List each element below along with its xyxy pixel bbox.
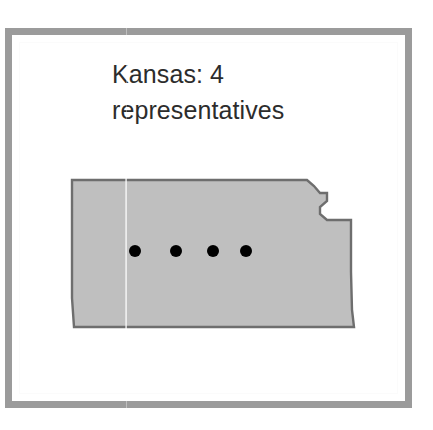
- representative-dot-2: [170, 245, 182, 257]
- figure-caption: Kansas: 4 representatives: [48, 56, 368, 128]
- kansas-map: [58, 168, 368, 338]
- representative-dot-1: [129, 245, 141, 257]
- representative-dot-4: [240, 245, 252, 257]
- kansas-map-svg: [58, 168, 368, 338]
- representative-dot-3: [207, 245, 219, 257]
- figure-canvas: Kansas: 4 representatives: [0, 0, 433, 430]
